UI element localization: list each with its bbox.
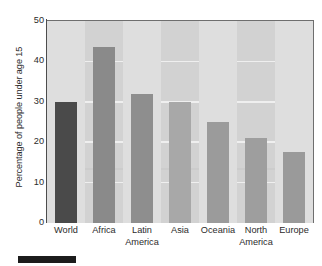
x-tick-label-line1: Asia (171, 225, 189, 235)
x-tick-label-line1: North (245, 225, 267, 235)
y-tick-label: 20 (22, 137, 44, 146)
plot-area (47, 20, 314, 223)
x-tick-label-line1: World (54, 225, 78, 235)
bar (207, 122, 230, 223)
x-tick-label-line1: Latin (132, 225, 152, 235)
bar-chart-figure: Percentage of people under age 15 504030… (0, 0, 322, 266)
bar (93, 47, 116, 223)
y-tick-label: 10 (22, 177, 44, 186)
y-tick-label: 30 (22, 96, 44, 105)
footer-rule-mark (18, 256, 76, 263)
bar (245, 138, 268, 223)
x-axis-tick-labels: WorldAfricaLatinAmericaAsiaOceaniaNorthA… (47, 224, 313, 264)
y-tick-label: 50 (22, 16, 44, 25)
bar (169, 102, 192, 223)
y-tick-label: 40 (22, 56, 44, 65)
x-tick-label-line1: Africa (92, 225, 116, 235)
bar (55, 102, 78, 223)
gridline (47, 61, 313, 63)
y-axis-tick-labels: 50403020100 (22, 20, 44, 222)
bar (131, 94, 154, 223)
x-tick-label-line1: Europe (279, 225, 309, 235)
x-tick-label-line2: America (115, 236, 170, 248)
x-tick-label-line2: America (229, 236, 284, 248)
x-tick-label: Europe (267, 224, 322, 236)
bar (283, 152, 306, 223)
